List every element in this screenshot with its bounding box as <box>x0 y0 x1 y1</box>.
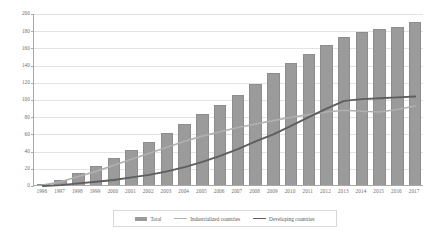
line-swatch-dark-icon <box>253 218 266 219</box>
x-axis-tick-label: 2004 <box>175 188 193 194</box>
x-axis-tick-label: 2016 <box>388 188 406 194</box>
line-industrialized-countries <box>43 106 415 185</box>
legend-label-total: Total <box>150 216 161 222</box>
x-axis-tick-label: 2005 <box>193 188 211 194</box>
x-axis-tick-label: 2009 <box>263 188 281 194</box>
y-axis-tick-label: 40 <box>4 149 30 154</box>
y-axis-tick-label: 120 <box>4 80 30 85</box>
x-axis-tick-label: 1996 <box>33 188 51 194</box>
x-axis-tick-label: 2015 <box>370 188 388 194</box>
x-axis-tick-label: 1999 <box>86 188 104 194</box>
y-axis-tick-label: 0 <box>4 183 30 188</box>
legend-item-developing-countries: Developing countries <box>253 216 314 222</box>
x-axis-tick-label: 2000 <box>104 188 122 194</box>
x-axis-tick-label: 1998 <box>68 188 86 194</box>
x-axis-tick-label: 2007 <box>228 188 246 194</box>
legend-label-developing-countries: Developing countries <box>269 216 314 222</box>
x-axis-tick-label: 2011 <box>299 188 317 194</box>
x-axis-tick-label: 2003 <box>157 188 175 194</box>
y-axis-tick-label: 20 <box>4 166 30 171</box>
x-axis-tick-label: 2001 <box>122 188 140 194</box>
x-axis-tick-label: 2017 <box>405 188 423 194</box>
chart-container: 020406080100120140160180200 199619971998… <box>0 0 446 239</box>
bar-swatch-icon <box>135 217 147 221</box>
chart-legend: Total Industrialized countries Developin… <box>113 210 337 227</box>
x-axis-labels: 1996199719981999200020012002200320042005… <box>33 188 423 200</box>
legend-label-industrialized-countries: Industrialized countries <box>190 216 240 222</box>
x-axis-tick-label: 1997 <box>51 188 69 194</box>
y-axis-tick-label: 100 <box>4 97 30 102</box>
plot-area <box>33 14 423 186</box>
legend-item-industrialized-countries: Industrialized countries <box>174 216 240 222</box>
x-axis-tick-label: 2008 <box>246 188 264 194</box>
y-axis-tick <box>31 186 34 187</box>
x-axis-tick-label: 2006 <box>210 188 228 194</box>
x-axis-tick-label: 2010 <box>281 188 299 194</box>
x-axis-tick-label: 2014 <box>352 188 370 194</box>
legend-item-total: Total <box>135 216 161 222</box>
y-axis-tick-label: 160 <box>4 46 30 51</box>
line-developing-countries <box>43 97 415 186</box>
line-series-group <box>34 14 424 186</box>
x-axis-tick-label: 2002 <box>139 188 157 194</box>
y-axis-tick-label: 200 <box>4 11 30 16</box>
x-axis-tick-label: 2013 <box>334 188 352 194</box>
y-axis-tick-label: 140 <box>4 63 30 68</box>
y-axis-tick-label: 180 <box>4 29 30 34</box>
line-swatch-light-icon <box>174 218 187 219</box>
y-axis-tick-label: 60 <box>4 132 30 137</box>
y-axis-tick-label: 80 <box>4 115 30 120</box>
x-axis-tick-label: 2012 <box>317 188 335 194</box>
